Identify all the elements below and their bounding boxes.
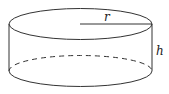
bottom-front-arc <box>9 71 152 86</box>
cylinder-diagram: r h <box>0 0 169 94</box>
bottom-back-arc <box>9 56 152 71</box>
radius-label: r <box>104 10 111 24</box>
height-label: h <box>156 44 164 58</box>
